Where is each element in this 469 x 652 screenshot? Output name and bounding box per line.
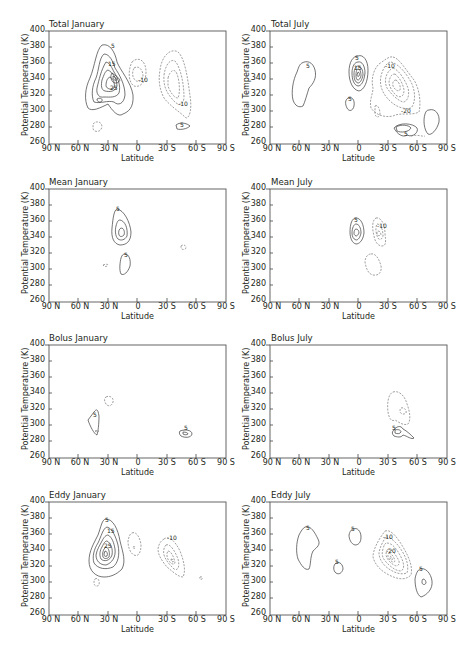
- svg-text:5: 5: [355, 54, 359, 61]
- svg-text:-20: -20: [401, 107, 411, 114]
- svg-text:-10: -10: [138, 76, 148, 83]
- contour-figure: Total January Potential Temperature (K) …: [0, 0, 469, 652]
- plot-area: 5 5 15 5 -10 -20 5: [221, 0, 455, 160]
- svg-text:-10: -10: [383, 533, 393, 540]
- svg-text:5: 5: [306, 62, 310, 69]
- panel-bolus-july: Bolus July Potential Temperature (K) 400…: [221, 314, 455, 474]
- svg-text:5: 5: [348, 95, 352, 102]
- plot-area: 5 15 25 -10: [0, 471, 234, 631]
- plot-area: 5 5 5 -10 -20 5: [221, 471, 455, 631]
- panel-total-january: Total January Potential Temperature (K) …: [0, 0, 234, 160]
- svg-text:-10: -10: [178, 100, 188, 107]
- svg-text:5: 5: [351, 525, 355, 532]
- svg-text:-10: -10: [385, 62, 395, 69]
- svg-text:5: 5: [93, 411, 97, 418]
- svg-text:25: 25: [104, 542, 112, 549]
- svg-text:5: 5: [124, 251, 128, 258]
- svg-text:5: 5: [116, 205, 120, 212]
- svg-text:5: 5: [180, 121, 184, 128]
- svg-text:15: 15: [107, 527, 115, 534]
- svg-text:5: 5: [184, 424, 188, 431]
- panel-eddy-january: Eddy January Potential Temperature (K) 4…: [0, 471, 234, 631]
- svg-text:5: 5: [105, 516, 109, 523]
- svg-text:5: 5: [335, 558, 339, 565]
- plot-area: 5: [221, 314, 455, 474]
- panel-mean-january: Mean January Potential Temperature (K) 4…: [0, 158, 234, 318]
- svg-text:5: 5: [404, 130, 408, 137]
- panel-mean-july: Mean July Potential Temperature (K) 400 …: [221, 158, 455, 318]
- svg-text:25: 25: [110, 84, 118, 91]
- plot-area: 5 5: [0, 314, 234, 474]
- svg-text:-10: -10: [377, 222, 387, 229]
- svg-text:15: 15: [108, 60, 116, 67]
- svg-text:-10: -10: [167, 534, 177, 541]
- svg-text:5: 5: [306, 524, 310, 531]
- svg-text:5: 5: [111, 42, 115, 49]
- plot-area: 5 5: [0, 158, 234, 318]
- svg-text:5: 5: [419, 565, 423, 572]
- svg-text:5: 5: [354, 216, 358, 223]
- svg-text:5: 5: [392, 424, 396, 431]
- panel-bolus-january: Bolus January Potential Temperature (K) …: [0, 314, 234, 474]
- panel-total-july: Total July Potential Temperature (K) 400…: [221, 0, 455, 160]
- svg-text:15: 15: [354, 64, 362, 71]
- svg-text:-20: -20: [386, 547, 396, 554]
- panel-eddy-july: Eddy July Potential Temperature (K) 400 …: [221, 471, 455, 631]
- plot-area: 5 15 25 -10 -10 5: [0, 0, 234, 160]
- plot-area: 5 -10: [221, 158, 455, 318]
